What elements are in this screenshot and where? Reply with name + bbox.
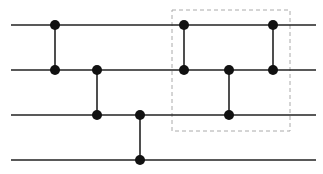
control-dot-icon bbox=[50, 65, 60, 75]
control-dot-icon bbox=[50, 20, 60, 30]
control-dot-icon bbox=[135, 155, 145, 165]
control-dot-icon bbox=[268, 65, 278, 75]
control-dot-icon bbox=[179, 20, 189, 30]
control-dot-icon bbox=[268, 20, 278, 30]
circuit-diagram bbox=[0, 0, 323, 174]
control-dot-icon bbox=[224, 110, 234, 120]
control-dot-icon bbox=[179, 65, 189, 75]
control-dot-icon bbox=[224, 65, 234, 75]
control-dot-icon bbox=[92, 110, 102, 120]
control-dot-icon bbox=[92, 65, 102, 75]
control-dot-icon bbox=[135, 110, 145, 120]
